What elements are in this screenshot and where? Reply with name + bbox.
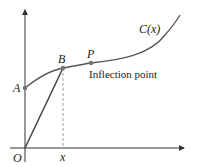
diagram-canvas: A B P O x C(x) Inflection point (0, 0, 198, 167)
point-A (23, 86, 28, 91)
ray-OB (25, 68, 63, 148)
label-B: B (58, 52, 66, 66)
label-origin: O (13, 151, 22, 165)
inflection-annotation: Inflection point (89, 68, 157, 80)
point-B (61, 66, 66, 71)
label-curve: C(x) (139, 22, 160, 36)
point-P (89, 61, 94, 66)
label-P: P (86, 47, 95, 61)
label-x: x (59, 150, 66, 164)
label-A: A (12, 81, 21, 95)
